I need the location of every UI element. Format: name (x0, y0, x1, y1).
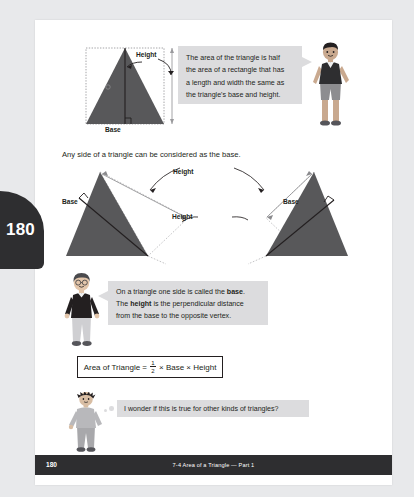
speech-bubble-definition-tail (98, 291, 108, 301)
formula-denominator: 2 (151, 367, 154, 374)
middle-triangles-diagram (62, 160, 352, 265)
bubble-def-line1-post: . (243, 288, 245, 296)
bubble-def-line-2: The height is the perpendicular distance (116, 298, 261, 310)
sentence-any-side: Any side of a triangle can be considered… (62, 150, 241, 159)
bubble-area-line-2: the area of a rectangle that has (186, 64, 295, 76)
top-triangle-diagram (80, 44, 180, 136)
bubble-def-line2-bold: height (130, 300, 151, 308)
boy-character-top (307, 42, 355, 130)
middle-height-label-top: Height (173, 168, 194, 175)
left-triangle-shape (66, 172, 148, 256)
bubble-area-line-4: the triangle's base and height. (186, 89, 295, 101)
speech-bubble-area-tail (302, 57, 312, 67)
left-right-angle-marker (79, 193, 88, 198)
top-height-leader-right (234, 168, 264, 190)
right-triangle-shape (266, 172, 348, 256)
boy-character-bottom (63, 392, 109, 454)
speech-bubble-wonder: I wonder if this is true for other kinds… (117, 400, 309, 417)
bubble-def-line2-pre: The (116, 300, 130, 308)
bubble-def-line2-post: is the perpendicular distance (151, 300, 243, 308)
speech-bubble-area-explanation: The area of the triangle is half the are… (178, 46, 302, 104)
formula-fraction-one-half: 1 2 (150, 360, 156, 374)
area-formula-box: Area of Triangle = 1 2 × Base × Height (77, 356, 223, 378)
middle-height-label-bottom: Height (172, 213, 193, 220)
bubble-def-line-3: from the base to the opposite vertex. (116, 310, 261, 322)
thought-dot-medium (109, 406, 114, 411)
formula-lead: Area of Triangle = (84, 363, 147, 372)
bubble-def-line1-pre: On a triangle one side is called the (116, 288, 227, 296)
middle-base-label-right: Base (283, 198, 299, 205)
child-character-middle (58, 272, 106, 350)
top-height-label: Height (136, 51, 157, 58)
page-tab-number: 180 (6, 220, 35, 240)
speech-bubble-definition: On a triangle one side is called the bas… (108, 281, 268, 325)
bottom-height-leader-right (232, 217, 248, 220)
middle-base-label-left: Base (62, 198, 78, 205)
top-base-label: Base (105, 126, 121, 133)
bubble-def-line1-bold: base (227, 288, 243, 296)
page-footer-bar: 180 7-4 Area of a Triangle — Part 1 (35, 455, 392, 475)
thought-dot-small (104, 409, 107, 412)
bubble-area-line-1: The area of the triangle is half (186, 52, 295, 64)
formula-tail: × Base × Height (159, 363, 216, 372)
height-label-arrow-right (158, 59, 171, 75)
bubble-area-line-3: a length and width the same as (186, 77, 295, 89)
footer-lesson-title: 7-4 Area of a Triangle — Part 1 (35, 462, 392, 468)
bubble-def-line-1: On a triangle one side is called the bas… (116, 286, 261, 298)
bubble-wonder-text: I wonder if this is true for other kinds… (124, 403, 303, 415)
